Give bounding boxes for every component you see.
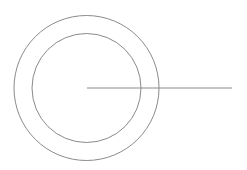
- concentric-circles-diagram: [0, 0, 247, 170]
